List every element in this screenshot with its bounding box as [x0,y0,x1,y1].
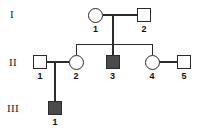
individual-id-II-3: 3 [101,72,124,81]
generation-label-1: I [10,9,14,20]
sibling-drop-line-II2 [76,44,77,56]
sibling-drop-line-II3 [112,44,113,56]
individual-id-I-1: 1 [85,25,106,34]
descent-line-generation-I [112,14,113,44]
mating-line-I1-I2 [103,14,137,15]
individual-id-II-1: 1 [29,72,51,81]
mating-line-II4-II5 [159,61,177,62]
generation-label-3: III [7,103,19,114]
sibship-line-generation-II [76,44,153,45]
individual-symbol-III-1[interactable] [48,101,62,115]
individual-id-I-2: 2 [133,25,155,34]
mating-line-II1-II2 [47,61,69,62]
individual-id-III-1: 1 [44,118,66,127]
individual-symbol-II-3[interactable] [106,55,120,69]
individual-symbol-II-5[interactable] [177,55,191,69]
individual-id-II-5: 5 [173,72,195,81]
individual-symbol-I-1[interactable] [88,8,103,23]
individual-symbol-I-2[interactable] [137,8,151,22]
pedigree-chart: I II III 1 2 1 2 3 4 5 1 [0,0,211,132]
generation-label-2: II [9,57,17,68]
descent-line-II1-II2-to-III1 [54,61,55,101]
individual-symbol-II-4[interactable] [145,55,160,70]
individual-id-II-2: 2 [65,72,87,81]
individual-symbol-II-2[interactable] [69,55,84,70]
sibling-drop-line-II4 [152,44,153,56]
individual-symbol-II-1[interactable] [33,55,47,69]
individual-id-II-4: 4 [141,72,163,81]
